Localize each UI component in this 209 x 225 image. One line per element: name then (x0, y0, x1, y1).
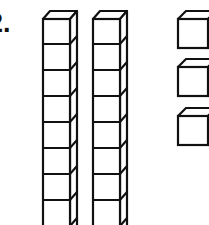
blocks-drawing (0, 0, 209, 225)
tens-rod-2 (93, 11, 127, 225)
base-ten-blocks-figure: 2. (0, 0, 209, 225)
unit-cube-1 (178, 11, 209, 48)
tens-rod-1 (43, 11, 77, 225)
unit-cube-3 (178, 108, 209, 145)
unit-cube-2 (178, 59, 209, 96)
